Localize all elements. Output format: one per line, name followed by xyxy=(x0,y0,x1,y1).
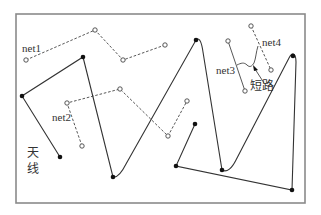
net2-trace xyxy=(65,87,189,148)
short-circuit-wire xyxy=(237,46,258,66)
net1-label: net1 xyxy=(22,42,41,54)
net2-label: net2 xyxy=(52,111,71,123)
circuit-diagram: net1 net2 天 线 net3 net4 xyxy=(0,0,321,215)
antenna-label-2: 线 xyxy=(27,162,39,176)
antenna-label-1: 天 xyxy=(27,146,39,160)
net1-trace xyxy=(24,28,167,62)
net3-label: net3 xyxy=(216,64,235,76)
net4-label: net4 xyxy=(262,36,281,48)
short-label: 短路 xyxy=(250,78,274,93)
